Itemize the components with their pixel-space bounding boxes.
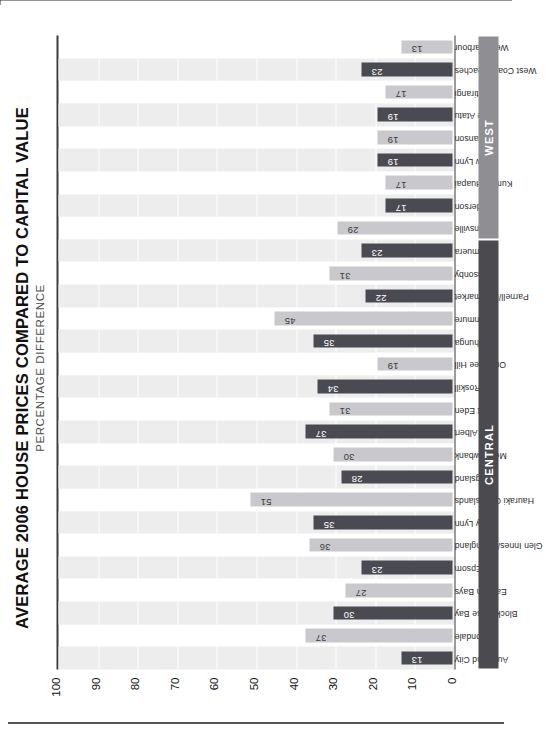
table-row[interactable]: 35 [313,515,452,529]
table-row[interactable]: 19 [377,153,452,167]
bar-value-label: 34 [319,379,345,393]
gridline-90 [98,35,99,669]
bar-value-label: 13 [403,651,429,665]
bar-value-label: 31 [331,266,357,280]
plot-area: 1337302723363551283037313419354522312329… [56,35,452,669]
table-row[interactable]: 30 [333,447,452,461]
y-tick-100: 100 [49,677,61,711]
y-tick-50: 50 [247,677,259,711]
y-tick-90: 90 [89,677,101,711]
bar-value-label: 35 [315,515,341,529]
table-row[interactable]: 51 [250,492,452,506]
group-band-west: WEST [478,36,498,238]
table-row[interactable]: 13 [401,40,452,54]
bar-value-label: 13 [403,40,429,54]
table-row[interactable]: 17 [385,198,452,212]
table-row[interactable]: 36 [309,538,452,552]
bar-value-label: 23 [363,560,389,574]
bar-value-label: 19 [379,153,405,167]
bar-value-label: 30 [335,606,361,620]
gridline-70 [177,35,178,669]
table-row[interactable]: 19 [377,130,452,144]
table-row[interactable]: 13 [401,651,452,665]
table-row[interactable]: 45 [274,311,452,325]
table-row[interactable]: 17 [385,175,452,189]
table-row[interactable]: 31 [329,266,452,280]
group-band-central: CENTRAL [478,240,498,668]
bar-value-label: 31 [331,402,357,416]
y-tick-20: 20 [366,677,378,711]
bar-value-label: 45 [276,311,302,325]
bar-value-label: 17 [387,175,413,189]
y-tick-30: 30 [326,677,338,711]
bar-value-label: 23 [363,62,389,76]
table-row[interactable]: 19 [377,357,452,371]
category-axis-labels: Auckland CityAvondaleBlockhouse BayEaste… [454,29,547,669]
page-bottom-rule [8,722,504,724]
bar-value-label: 36 [311,538,337,552]
table-row[interactable]: 23 [361,62,452,76]
table-row[interactable]: 29 [337,221,452,235]
y-tick-70: 70 [168,677,180,711]
bar-value-label: 19 [379,130,405,144]
bar-value-label: 17 [387,198,413,212]
table-row[interactable]: 22 [365,289,452,303]
table-row[interactable]: 37 [305,628,452,642]
table-row[interactable]: 23 [361,243,452,257]
bar-value-label: 19 [379,107,405,121]
gridline-50 [256,35,257,669]
gridline-30 [335,35,336,669]
bar-value-label: 19 [379,357,405,371]
table-row[interactable]: 34 [317,379,452,393]
gridline-60 [216,35,217,669]
bar-value-label: 51 [252,492,278,506]
table-row[interactable]: 19 [377,107,452,121]
bar-value-label: 23 [363,243,389,257]
y-tick-10: 10 [405,677,417,711]
category-label: Epsom [454,564,481,573]
y-tick-40: 40 [287,677,299,711]
bar-value-label: 17 [387,85,413,99]
bar-value-label: 37 [307,628,333,642]
bar-value-label: 35 [315,334,341,348]
y-tick-60: 60 [207,677,219,711]
table-row[interactable]: 35 [313,334,452,348]
bar-value-label: 30 [335,447,361,461]
table-row[interactable]: 23 [361,560,452,574]
y-tick-80: 80 [128,677,140,711]
chart-title: AVERAGE 2006 HOUSE PRICES COMPARED TO CA… [12,0,31,735]
bar-value-label: 28 [343,470,369,484]
chart-subtitle: PERCENTAGE DIFFERENCE [33,0,45,735]
gridline-80 [137,35,138,669]
table-row[interactable]: 17 [385,85,452,99]
table-row[interactable]: 30 [333,606,452,620]
gridline-40 [296,35,297,669]
bar-value-label: 37 [307,424,333,438]
bar-value-label: 29 [339,221,365,235]
bar-value-label: 22 [367,289,393,303]
table-row[interactable]: 28 [341,470,452,484]
table-row[interactable]: 37 [305,424,452,438]
table-row[interactable]: 31 [329,402,452,416]
table-row[interactable]: 27 [345,583,452,597]
bar-value-label: 27 [347,583,373,597]
y-tick-0: 0 [445,677,457,711]
